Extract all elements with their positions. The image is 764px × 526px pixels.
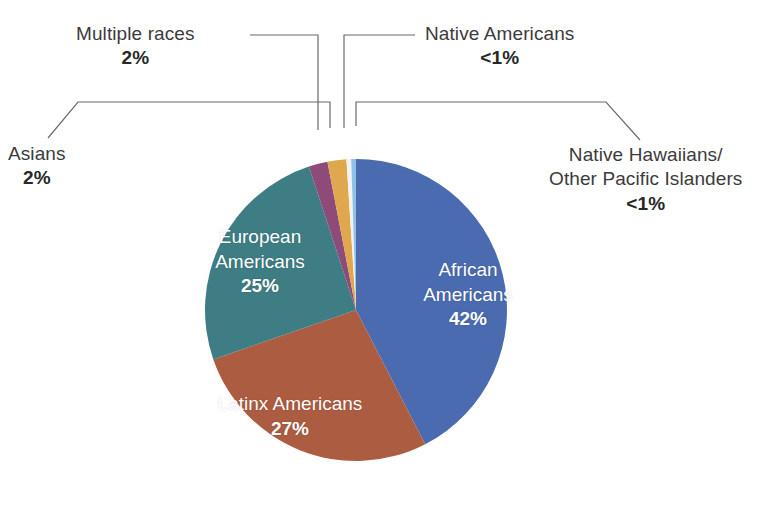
leader-line-asians [48,102,330,138]
callout-label-native-americans-value: <1% [425,46,574,70]
slice-label-african-americans-name-line2: Americans [400,283,536,308]
callout-label-multiple-races-name: Multiple races [76,22,195,46]
slice-label-european-americans: European Americans 25% [185,225,335,299]
slice-label-latinx-americans-value: 27% [175,417,405,442]
callout-label-multiple-races-value: 2% [76,46,195,70]
slice-label-european-americans-name-line2: Americans [185,250,335,275]
callout-label-asians-name: Asians [8,142,66,166]
callout-label-native-americans: Native Americans <1% [425,22,574,71]
callout-label-asians: Asians 2% [8,142,66,191]
leader-line-native-americans [344,35,415,128]
callout-label-native-americans-name: Native Americans [425,22,574,46]
callout-label-native-hawaiians-value: <1% [549,192,742,216]
callout-label-asians-value: 2% [8,166,66,190]
leader-line-native-hawaiians [356,102,640,140]
leader-line-multiple-races [250,35,318,130]
pie-chart: Multiple races 2% Asians 2% Native Ameri… [0,0,764,526]
pie-chart-svg [0,0,764,526]
slice-label-african-americans-name-line1: African [400,258,536,283]
slice-label-european-americans-name-line1: European [185,225,335,250]
callout-label-native-hawaiians-name-line1: Native Hawaiians/ [549,143,742,167]
slice-label-latinx-americans: Latinx Americans 27% [175,392,405,441]
callout-label-multiple-races: Multiple races 2% [76,22,195,71]
slice-label-european-americans-value: 25% [185,274,335,299]
slice-label-african-americans: African Americans 42% [400,258,536,332]
callout-label-native-hawaiians-name-line2: Other Pacific Islanders [549,167,742,191]
callout-label-native-hawaiians: Native Hawaiians/ Other Pacific Islander… [549,143,742,216]
slice-label-african-americans-value: 42% [400,307,536,332]
slice-label-latinx-americans-name-line1: Latinx Americans [175,392,405,417]
